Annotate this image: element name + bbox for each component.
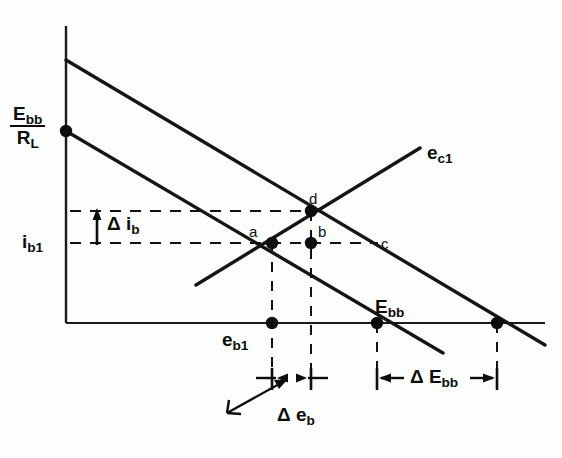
delta-current-label: Δ ib [107,214,139,233]
point-marker-b [305,237,317,249]
load-line-diagram: Ebb RL ib1 Δ ib ec1 a b c d eb1 Ebb Δ eb… [0,0,562,458]
y-intercept-numerator: Ebb [10,104,45,127]
y-intercept-denominator: RL [10,127,45,148]
diagram-canvas [0,0,562,458]
dimension-delta-ib [93,208,102,245]
point-label-d: d [309,191,317,206]
point-marker-y-intercept [60,125,72,137]
point-label-c: c [381,236,389,251]
point-marker-Ebb [371,317,383,329]
grid-line-label: ec1 [427,143,453,162]
load-line-upper [66,60,545,345]
current-level-label: ib1 [22,232,43,251]
voltage-level-label: eb1 [222,330,248,349]
point-marker-eb1 [266,317,278,329]
point-label-a: a [249,224,257,239]
supply-voltage-label: Ebb [375,297,404,316]
point-marker-Ebb-shifted [491,317,503,329]
point-label-b: b [318,224,326,239]
grid-voltage-line-ec1 [196,148,420,285]
y-axis-intercept-label: Ebb RL [10,104,45,148]
delta-supply-label: Δ Ebb [410,367,458,386]
point-marker-a [266,237,278,249]
delta-voltage-label: Δ eb [277,405,315,424]
